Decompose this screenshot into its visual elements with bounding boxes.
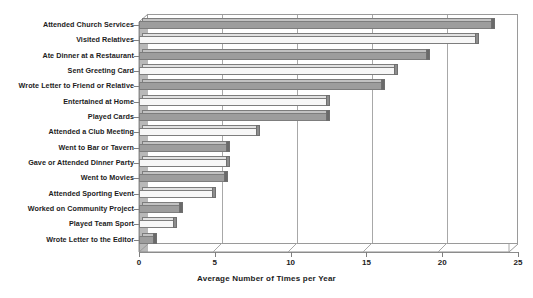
bar-body [139,113,327,121]
bar-body [139,236,154,244]
bar-body [139,98,327,106]
category-axis: Attended Church ServicesVisited Relative… [0,18,134,252]
category-label-15: Wrote Letter to the Editor [0,235,134,244]
bar-end-cap [212,187,216,198]
bar-front-face [139,21,492,29]
bar-end-cap [179,202,183,213]
bar-body [139,52,427,60]
bar-body [139,144,227,152]
x-tick-label-5: 5 [203,258,227,267]
category-label-5: Wrote Letter to Friend or Relative [0,81,134,90]
category-label-2: Visited Relatives [0,35,134,44]
category-label-8: Attended a Club Meeting [0,127,134,136]
bar-front-face [139,67,395,75]
bar-front-face [139,113,327,121]
category-label-4: Sent Greeting Card [0,66,134,75]
bar-6 [139,95,518,110]
bar-1 [139,18,518,33]
x-tick-label-20: 20 [430,258,454,267]
bar-series [139,18,518,252]
category-label-13: Worked on Community Project [0,204,134,213]
x-tick-15 [366,252,367,257]
category-label-14: Played Team Sport [0,219,134,228]
bar-body [139,159,227,167]
bar-body [139,190,213,198]
bar-4 [139,64,518,79]
bar-front-face [139,144,227,152]
category-label-7: Played Cards [0,112,134,121]
bar-body [139,36,476,44]
bar-body [139,21,492,29]
bar-front-face [139,82,382,90]
category-label-6: Entertained at Home [0,97,134,106]
x-tick-label-15: 15 [354,258,378,267]
bar-7 [139,110,518,125]
bar-12 [139,187,518,202]
bar-end-cap [226,141,230,152]
x-tick-0 [139,252,140,257]
bar-13 [139,202,518,217]
bar-front-face [139,128,257,136]
x-tick-5 [215,252,216,257]
bar-end-cap [153,233,157,244]
bar-chart: Attended Church ServicesVisited Relative… [0,0,533,298]
bar-14 [139,217,518,232]
bar-end-cap [491,18,495,29]
bar-front-face [139,220,174,228]
x-tick-label-0: 0 [127,258,151,267]
x-axis-title: Average Number of Times per Year [0,274,533,283]
bar-front-face [139,36,476,44]
bar-end-cap [326,95,330,106]
x-tick-20 [442,252,443,257]
bar-2 [139,33,518,48]
category-label-10: Gave or Attended Dinner Party [0,158,134,167]
bar-end-cap [224,171,228,182]
bar-10 [139,156,518,171]
bar-front-face [139,52,427,60]
bar-body [139,67,395,75]
x-tick-label-25: 25 [506,258,530,267]
bar-body [139,220,174,228]
bar-body [139,205,180,213]
bar-front-face [139,190,213,198]
bar-11 [139,171,518,186]
bar-5 [139,79,518,94]
bar-end-cap [173,217,177,228]
bar-end-cap [426,49,430,60]
category-label-11: Went to Movies [0,173,134,182]
x-tick-10 [291,252,292,257]
bar-body [139,174,225,182]
category-label-1: Attended Church Services [0,20,134,29]
bar-end-cap [326,110,330,121]
bar-front-face [139,159,227,167]
bar-body [139,82,382,90]
bar-end-cap [381,79,385,90]
bar-front-face [139,236,154,244]
bar-end-cap [475,33,479,44]
plot-floor-edge [139,252,518,253]
x-tick-25 [518,252,519,257]
bar-9 [139,141,518,156]
bar-front-face [139,98,327,106]
bar-3 [139,49,518,64]
x-tick-label-10: 10 [279,258,303,267]
bar-front-face [139,174,225,182]
bar-front-face [139,205,180,213]
bar-end-cap [394,64,398,75]
bar-8 [139,125,518,140]
category-label-12: Attended Sporting Event [0,189,134,198]
bar-15 [139,233,518,248]
bar-end-cap [226,156,230,167]
bar-end-cap [256,125,260,136]
bar-body [139,128,257,136]
category-label-3: Ate Dinner at a Restaurant [0,51,134,60]
category-label-9: Went to Bar or Tavern [0,143,134,152]
